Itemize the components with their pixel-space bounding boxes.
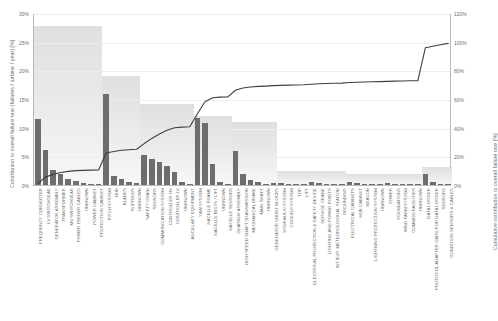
y-axis-left-tick: 15%	[3, 97, 29, 103]
y-axis-left-tick: 10%	[3, 126, 29, 132]
x-axis-tick-label: WIND FARM SYSTEM	[403, 188, 408, 232]
x-axis-tick-label: GROUNDING	[342, 188, 347, 215]
x-axis-tick-label: BEACON	[365, 188, 370, 206]
plot-area	[33, 14, 451, 186]
x-axis-tick-label: SENSORS	[441, 188, 446, 209]
x-axis-tick-label: YAW SYSTEM	[198, 188, 203, 217]
x-axis-tick-label: NACELLE FRAME	[206, 188, 211, 224]
y-axis-right-tick: 60%	[454, 97, 480, 103]
x-axis-tick-label: LIGHTING AND POWER POINTS	[327, 188, 332, 254]
y-axis-left-tick: 5%	[3, 154, 29, 160]
x-axis-tick-label: MECHANICAL BRAKE	[251, 188, 256, 233]
x-axis-tick-label: COOLING SYSTEM	[289, 188, 294, 227]
x-axis-tick-label: CONTROLLER LV	[175, 188, 180, 224]
cumulative-line	[34, 14, 450, 185]
x-axis-tick-label: COMMON FACILITIES	[411, 188, 416, 233]
x-axis-tick-label: LIGHTNING PROTECTION SYSTEM	[373, 188, 378, 261]
x-axis-tick-label: POWER FEEDER CABLES	[76, 188, 81, 242]
x-axis-tick-label: UNKNOWN	[183, 188, 188, 211]
y-axis-left-tick: 0%	[3, 183, 29, 189]
x-axis-tick-label: UNKNOWN	[266, 188, 271, 211]
y-axis-right-title: Cumulative contribution to overall failu…	[492, 133, 498, 250]
x-axis-tick-label: TOWER	[388, 188, 393, 204]
y-axis-right-tick: 120%	[454, 11, 480, 17]
x-axis-tick-label: HIGH SPEED SHAFT TRANSMISSION	[244, 188, 249, 265]
x-axis-tick-label: TOP	[297, 188, 302, 197]
x-axis-tick-label: INT./EXT. METEOROLOGICAL STATION	[335, 188, 340, 268]
y-axis-right-tick: 100%	[454, 40, 480, 46]
x-axis-tick-label: UNKNOWN	[84, 188, 89, 211]
x-axis-tick-label: TRANSFORMER	[61, 188, 66, 222]
x-axis-category-labels: FREQUENCY CONVERTERLV SWITCHGEARGENERATO…	[33, 188, 451, 318]
x-axis-tick-label: PROTOCOL ADAPTER CARD FOR DATA LOGGER	[434, 188, 439, 290]
y-axis-left-title: Contribution to overall failure rate (fa…	[9, 40, 15, 188]
y-axis-right-tick: 40%	[454, 126, 480, 132]
x-axis-tick-label: HUB	[114, 188, 119, 197]
x-axis-tick-label: HYDRAULIC SYSTEM	[282, 188, 287, 233]
x-axis-tick-label: UNKNOWN	[137, 188, 142, 211]
x-axis-tick-label: COMMUNICATION SYSTEM	[160, 188, 165, 245]
x-axis-tick-label: LV SWITCHGEAR	[46, 188, 51, 224]
x-axis-tick-label: MV SWITCHGEAR	[69, 188, 74, 225]
x-axis-tick-label: HUB CABINET	[358, 188, 363, 217]
x-axis-tick-label: PITCH SYSTEM	[107, 188, 112, 220]
y-axis-left-tick: 25%	[3, 40, 29, 46]
x-axis-tick-label: MAIN SHAFT	[259, 188, 264, 215]
x-axis-tick-label: GEARBOX ASSEMBLY	[236, 188, 241, 234]
x-axis-tick-label: NACELLE BELTS / LIFT	[213, 188, 218, 236]
x-axis-tick-label: SENSORS	[152, 188, 157, 209]
x-axis-tick-label: ANCILLARY EQUIPMENT	[190, 188, 195, 239]
x-axis-tick-label: FOUNDATIONS	[396, 188, 401, 220]
x-axis-tick-label: SLIPRINGS	[130, 188, 135, 211]
x-axis-tick-label: PROTECTION CABINET	[99, 188, 104, 237]
x-axis-tick-label: CONDITION SENSORS & CABLES	[449, 188, 454, 258]
y-axis-right-tick: 20%	[454, 154, 480, 160]
x-axis-tick-label: SAFETY CHAIN	[145, 188, 150, 220]
x-axis-tick-label: ELECTRICAL CABINETS	[350, 188, 355, 238]
x-axis-tick-label: UNKNOWN	[380, 188, 385, 211]
x-axis-tick-label: FREQUENCY CONVERTER	[38, 188, 43, 244]
y-axis-left-tick: 30%	[3, 11, 29, 17]
x-axis-tick-label: CONTROLLER HV	[168, 188, 173, 225]
x-axis-tick-label: UNKNOWN	[221, 188, 226, 211]
y-axis-right-tick: 80%	[454, 68, 480, 74]
x-axis-tick-label: BLADES	[122, 188, 127, 205]
x-axis-tick-label: GENERATOR ASSEMBLY	[54, 188, 59, 240]
x-axis-tick-label: NACELLE SENSORS	[228, 188, 233, 231]
x-axis-tick-label: UNKNOWN	[418, 188, 423, 211]
y-axis-right-tick: 0%	[454, 183, 480, 189]
x-axis-tick-label: POWER CABINET	[92, 188, 97, 225]
x-axis-tick-label: SERVICE CRANE	[320, 188, 325, 224]
y-axis-left-tick: 20%	[3, 68, 29, 74]
x-axis-tick-label: ELECTRICAL PROTECTION & SAFETY DEVICE	[312, 188, 317, 285]
x-axis-tick-label: DATA LOGGER	[426, 188, 431, 219]
x-axis-tick-label: LIFT	[304, 188, 309, 197]
x-axis-tick-label: GENERATOR SHUNT BLOCKS	[274, 188, 279, 250]
